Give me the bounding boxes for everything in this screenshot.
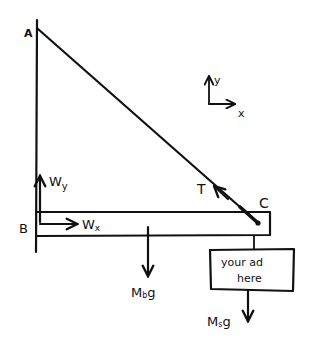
pin-c — [255, 220, 260, 225]
label-point-c: C — [259, 195, 269, 211]
sign-text-line2: here — [237, 272, 262, 285]
label-point-a: A — [24, 27, 33, 40]
label-sign-weight: Msg — [207, 314, 231, 329]
force-tension-arrow — [215, 187, 228, 199]
wall-line — [36, 20, 37, 252]
label-wx: Wx — [82, 217, 101, 233]
label-wy: Wy — [49, 174, 68, 192]
free-body-diagram: A B C T Wy Wx Mbg Msg your ad here y x — [0, 0, 312, 349]
label-axis-y: y — [214, 74, 221, 87]
label-point-b: B — [19, 221, 28, 236]
label-beam-weight: Mbg — [131, 285, 156, 300]
label-axis-x: x — [238, 107, 245, 120]
label-tension: T — [196, 181, 206, 197]
cable-line — [38, 29, 257, 222]
sign-text-line1: your ad — [221, 256, 263, 269]
cable-end-segment — [240, 207, 258, 223]
